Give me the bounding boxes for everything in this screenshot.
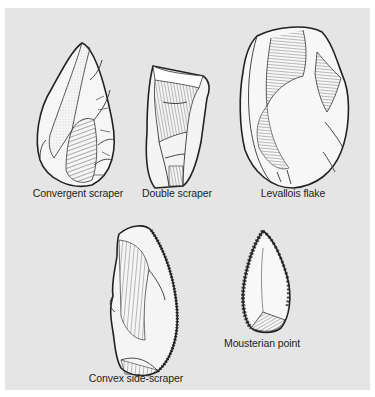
convergent-scraper-label: Convergent scraper — [33, 187, 123, 199]
double-scraper-drawing — [143, 62, 215, 190]
figure-panel: Convergent scraper Double scraper Levall… — [5, 8, 370, 390]
double-scraper-label: Double scraper — [142, 187, 212, 199]
levallois-flake-label: Levallois flake — [261, 187, 325, 199]
mousterian-point-label: Mousterian point — [224, 337, 300, 349]
levallois-flake-drawing — [237, 22, 352, 190]
convergent-scraper-drawing — [32, 40, 120, 190]
convex-side-scraper-drawing — [105, 220, 181, 378]
mousterian-point-drawing — [239, 228, 293, 336]
convex-side-scraper-label: Convex side-scraper — [89, 372, 183, 384]
